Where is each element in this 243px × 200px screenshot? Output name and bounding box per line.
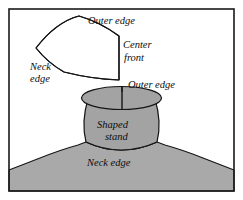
label-shaped-stand-line1: Shaped (97, 119, 129, 130)
label-neck-edge-line2: edge (30, 73, 50, 84)
label-center-front-line1: Center (123, 39, 152, 50)
label-neck-edge-line1: Neck (29, 61, 51, 72)
label-center-front-line2: front (124, 52, 145, 63)
collar-diagram-figure: Outer edge Center front Neck edge Outer … (0, 0, 243, 200)
label-neck-edge-lower: Neck edge (86, 157, 131, 168)
label-outer-edge-lower: Outer edge (128, 79, 175, 90)
diagram-canvas: Outer edge Center front Neck edge Outer … (0, 0, 243, 200)
label-outer-edge-upper: Outer edge (88, 15, 135, 26)
label-shaped-stand-line2: stand (105, 131, 129, 142)
